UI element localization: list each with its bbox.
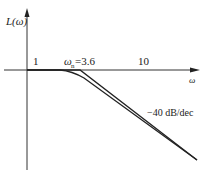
- bode-plot: L(ω) ω 1 10 ω n =3.6 −40 dB/dec: [0, 0, 213, 181]
- tick-label-1: 1: [33, 55, 39, 67]
- tick-label-10: 10: [138, 55, 150, 67]
- slope-label: −40 dB/dec: [147, 107, 194, 118]
- corner-frequency-label: ω n =3.6: [64, 55, 95, 70]
- x-axis-arrow-icon: [190, 68, 200, 73]
- y-axis-label: L(ω): [5, 15, 28, 28]
- corner-value: =3.6: [75, 55, 95, 67]
- x-axis-label: ω: [189, 75, 195, 85]
